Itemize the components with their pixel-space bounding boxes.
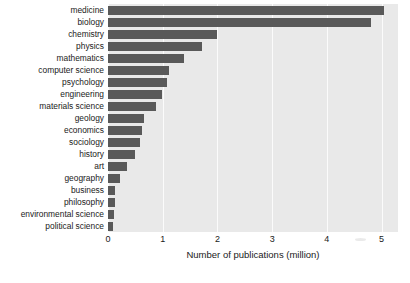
x-tick-label: 4 <box>324 234 329 244</box>
bar <box>108 138 140 147</box>
bar <box>108 210 114 219</box>
bars-layer <box>108 4 398 232</box>
bar <box>108 6 384 15</box>
bar <box>108 114 144 123</box>
bar <box>108 90 162 99</box>
category-label: geology <box>0 114 104 123</box>
y-axis-category-labels: medicinebiologychemistryphysicsmathemati… <box>0 4 104 232</box>
category-label: biology <box>0 18 104 27</box>
bar <box>108 174 120 183</box>
category-label: psychology <box>0 78 104 87</box>
bar <box>108 30 217 39</box>
x-axis-title: Number of publications (million) <box>108 249 398 260</box>
bar <box>108 126 142 135</box>
category-label: philosophy <box>0 198 104 207</box>
x-tick-label: 5 <box>379 234 384 244</box>
bar <box>108 18 371 27</box>
category-label: environmental science <box>0 210 104 219</box>
category-label: political science <box>0 222 104 231</box>
category-label: business <box>0 186 104 195</box>
category-label: economics <box>0 126 104 135</box>
x-axis-tick-labels: 012345 <box>108 234 398 248</box>
category-label: art <box>0 162 104 171</box>
category-label: computer science <box>0 66 104 75</box>
category-label: history <box>0 150 104 159</box>
category-label: medicine <box>0 6 104 15</box>
bar <box>108 42 202 51</box>
category-label: engineering <box>0 90 104 99</box>
category-label: chemistry <box>0 30 104 39</box>
bar <box>108 102 156 111</box>
x-tick-label: 2 <box>215 234 220 244</box>
category-label: mathematics <box>0 54 104 63</box>
category-label: materials science <box>0 102 104 111</box>
bar <box>108 66 169 75</box>
bar <box>108 186 115 195</box>
plot-area <box>108 4 398 232</box>
x-tick-label: 3 <box>270 234 275 244</box>
paper-smudge <box>355 238 366 241</box>
x-tick-label: 0 <box>105 234 110 244</box>
bar <box>108 222 113 231</box>
category-label: physics <box>0 42 104 51</box>
category-label: geography <box>0 174 104 183</box>
bar-chart: medicinebiologychemistryphysicsmathemati… <box>0 0 410 283</box>
bar <box>108 162 127 171</box>
category-label: sociology <box>0 138 104 147</box>
bar <box>108 198 115 207</box>
x-tick-label: 1 <box>160 234 165 244</box>
bar <box>108 54 184 63</box>
bar <box>108 78 167 87</box>
bar <box>108 150 135 159</box>
